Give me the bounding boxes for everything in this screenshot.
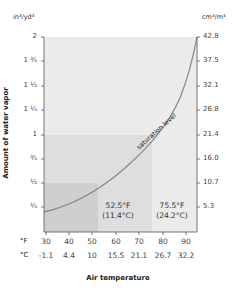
bottom-ticks xyxy=(46,232,186,235)
xtick-f: 90 xyxy=(176,237,196,246)
annotation-75-5f-fahrenheit: 75.5°F xyxy=(154,201,190,211)
right-ticks xyxy=(197,37,200,207)
annotation-52-5f: 52.5°F (11.4°C) xyxy=(100,201,136,221)
xtick-f: 30 xyxy=(36,237,56,246)
chart-plot: saturation level xyxy=(0,0,236,292)
ytick-left: ¼ xyxy=(17,202,37,210)
ytick-right: 10.7 xyxy=(203,178,219,186)
xtick-c: 4.4 xyxy=(59,251,79,260)
xtick-f: 50 xyxy=(82,237,102,246)
xtick-f: 80 xyxy=(153,237,173,246)
xtick-c: -1.1 xyxy=(36,251,56,260)
ytick-left: ½ xyxy=(17,178,37,186)
ytick-left: 1 ¾ xyxy=(17,56,37,64)
xtick-c: 10 xyxy=(82,251,102,260)
ytick-right: 16.0 xyxy=(203,154,219,162)
annotation-75-5f-celsius: (24.2°C) xyxy=(154,211,190,221)
xtick-c: 21.1 xyxy=(129,251,149,260)
ytick-right: 21.4 xyxy=(203,130,219,138)
y-axis-title: Amount of water vapor xyxy=(2,83,10,183)
fahrenheit-label: °F xyxy=(20,237,28,245)
ytick-right: 26.8 xyxy=(203,105,219,113)
annotation-75-5f: 75.5°F (24.2°C) xyxy=(154,201,190,221)
ytick-left: 2 xyxy=(17,32,37,40)
xtick-c: 15.5 xyxy=(106,251,126,260)
xtick-f: 40 xyxy=(59,237,79,246)
xtick-f: 70 xyxy=(129,237,149,246)
annotation-52-5f-fahrenheit: 52.5°F xyxy=(100,201,136,211)
ytick-right: 5.3 xyxy=(203,202,214,210)
xtick-c: 26.7 xyxy=(153,251,173,260)
ytick-right: 37.5 xyxy=(203,56,219,64)
celsius-label: °C xyxy=(20,251,28,259)
xtick-f: 60 xyxy=(106,237,126,246)
annotation-52-5f-celsius: (11.4°C) xyxy=(100,211,136,221)
left-ticks xyxy=(41,37,44,207)
xtick-c: 32.2 xyxy=(176,251,196,260)
ytick-left: 1 ½ xyxy=(17,81,37,89)
x-axis-title: Air temperature xyxy=(0,274,236,282)
ytick-left: ¾ xyxy=(17,154,37,162)
region-52-5f xyxy=(44,183,98,232)
ytick-left: 1 ¼ xyxy=(17,105,37,113)
ytick-right: 32.1 xyxy=(203,81,219,89)
ytick-right: 42.8 xyxy=(203,32,219,40)
ytick-left: 1 xyxy=(17,130,37,138)
